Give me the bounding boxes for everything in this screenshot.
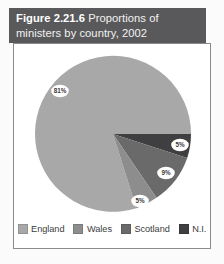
figure-title-line-2: ministers by country, 2002 — [16, 26, 200, 41]
pie-label-scotland-text: 9% — [161, 169, 171, 176]
figure-number: Figure 2.21.6 — [16, 12, 85, 24]
pie-label-wales: 5% — [131, 195, 149, 207]
legend-swatch-wales-icon — [73, 224, 83, 234]
figure-title-bar: Figure 2.21.6 Proportions of ministers b… — [9, 8, 206, 43]
pie-label-ni-text: 5% — [175, 141, 185, 148]
legend-label-ni: N.I. — [192, 224, 206, 234]
legend-label-england: England — [31, 224, 64, 234]
figure-content-box: 81% 5% 9% 5% — [13, 43, 211, 249]
pie-chart: 81% 5% 9% 5% — [14, 44, 210, 212]
legend-swatch-england-icon — [18, 224, 28, 234]
legend-item-wales[interactable]: Wales — [73, 224, 111, 234]
pie-label-wales-text: 5% — [135, 197, 145, 204]
figure-container: Figure 2.21.6 Proportions of ministers b… — [0, 0, 224, 264]
legend-label-scotland: Scotland — [134, 224, 169, 234]
legend-label-wales: Wales — [87, 224, 112, 234]
legend-swatch-ni-icon — [179, 224, 189, 234]
chart-legend: England Wales Scotland N.I. — [14, 214, 210, 244]
pie-label-ni: 5% — [171, 139, 189, 151]
pie-label-scotland: 9% — [157, 167, 175, 179]
figure-title-line-1: Figure 2.21.6 Proportions of — [16, 11, 200, 26]
pie-label-england-text: 81% — [54, 87, 67, 94]
pie-label-england: 81% — [51, 85, 69, 97]
figure-title-rest: Proportions of — [85, 12, 159, 24]
legend-swatch-scotland-icon — [121, 224, 131, 234]
pie-chart-svg: 81% 5% 9% 5% — [14, 44, 210, 212]
legend-item-ni[interactable]: N.I. — [179, 224, 207, 234]
legend-item-scotland[interactable]: Scotland — [121, 224, 170, 234]
legend-item-england[interactable]: England — [18, 224, 65, 234]
